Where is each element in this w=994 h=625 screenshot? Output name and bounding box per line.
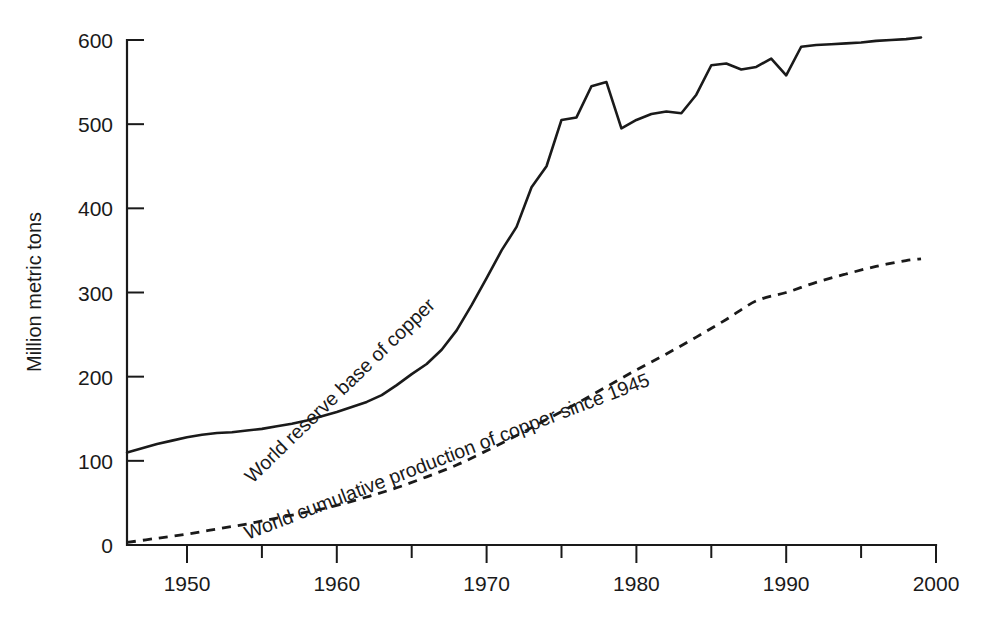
y-tick-label-200: 200 — [78, 366, 113, 389]
y-tick-label-300: 300 — [78, 282, 113, 305]
series-world-cumulative-production-line — [127, 259, 921, 543]
y-axis-ticks — [127, 40, 144, 545]
curve-labels-group: World reserve base of copper World cumul… — [240, 293, 653, 543]
x-tick-label-1960: 1960 — [313, 572, 360, 595]
x-tick-label-1950: 1950 — [164, 572, 211, 595]
x-tick-label-1990: 1990 — [763, 572, 810, 595]
x-tick-label-1970: 1970 — [463, 572, 510, 595]
y-tick-label-400: 400 — [78, 197, 113, 220]
x-axis-ticks — [187, 545, 936, 563]
y-tick-label-100: 100 — [78, 450, 113, 473]
x-tick-label-1980: 1980 — [613, 572, 660, 595]
y-tick-label-0: 0 — [101, 534, 113, 557]
axes-group: 0100200300400500600 19501960197019801990… — [78, 29, 959, 595]
x-axis-tick-labels: 195019601970198019902000 — [164, 572, 960, 595]
y-axis-title: Million metric tons — [23, 212, 45, 372]
x-tick-label-2000: 2000 — [913, 572, 960, 595]
chart-figure: 0100200300400500600 19501960197019801990… — [0, 0, 994, 625]
y-tick-label-500: 500 — [78, 113, 113, 136]
y-axis-tick-labels: 0100200300400500600 — [78, 29, 113, 557]
chart-svg: 0100200300400500600 19501960197019801990… — [0, 0, 994, 625]
series-world-reserve-base-line — [127, 37, 921, 452]
y-tick-label-600: 600 — [78, 29, 113, 52]
curve-label-world-cumulative-production: World cumulative production of copper si… — [241, 368, 652, 543]
